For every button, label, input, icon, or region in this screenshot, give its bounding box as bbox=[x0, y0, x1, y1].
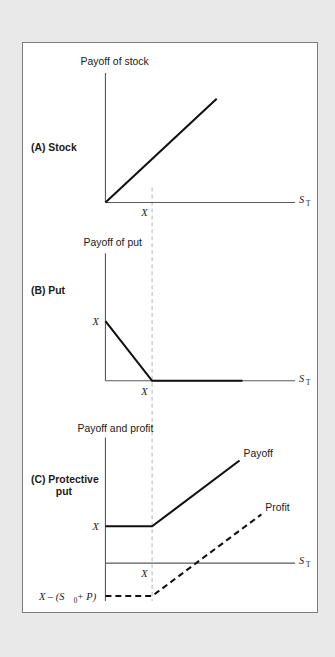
panel-put-caption: (B) Put bbox=[31, 285, 66, 296]
panel-protective-put-x-axis-title: S bbox=[299, 555, 305, 566]
panel-protective-put-y-axis-title: Payoff and profit bbox=[78, 423, 154, 434]
panel-stock-y-axis-title: Payoff of stock bbox=[81, 56, 150, 67]
panel-protective-put-y-tick-label: X bbox=[92, 521, 100, 532]
panel-put-y-tick-label: X bbox=[92, 316, 100, 327]
breakeven-label-tail: + P) bbox=[77, 591, 97, 603]
panel-put-x-tick-label: X bbox=[140, 386, 148, 397]
panel-put-payoff-line bbox=[105, 321, 242, 381]
panel-put-y-axis-title: Payoff of put bbox=[84, 237, 142, 248]
panel-protective-put-caption-line1: (C) Protective bbox=[31, 474, 99, 485]
breakeven-label-head: X – (S bbox=[38, 591, 65, 603]
figure-panel-frame: Payoff of stock X S T (A) Stock Payoff o… bbox=[22, 42, 318, 613]
panel-stock: Payoff of stock X S T (A) Stock bbox=[31, 56, 311, 218]
panel-stock-payoff-line bbox=[105, 99, 216, 203]
panel-protective-put-x-axis-title-subscript: T bbox=[306, 561, 311, 569]
panel-put: Payoff of put X X S T (B) Put bbox=[31, 237, 311, 396]
panel-put-x-axis-title: S bbox=[299, 373, 305, 384]
panel-protective-put: Payoff and profit Payoff Profit X X X – … bbox=[31, 423, 311, 605]
panel-protective-put-x-tick-label: X bbox=[140, 568, 148, 579]
panel-stock-x-axis-title: S bbox=[299, 194, 305, 205]
panel-protective-put-payoff-label: Payoff bbox=[244, 448, 273, 459]
panel-stock-caption: (A) Stock bbox=[31, 142, 77, 153]
panel-put-x-axis-title-subscript: T bbox=[306, 379, 311, 387]
panel-protective-put-breakeven-label: X – (S 0 + P) bbox=[38, 591, 97, 605]
panel-protective-put-payoff-line bbox=[105, 461, 239, 527]
panel-protective-put-caption-line2: put bbox=[56, 486, 73, 497]
panel-stock-x-tick-label: X bbox=[140, 207, 148, 218]
panel-protective-put-profit-label: Profit bbox=[265, 502, 289, 513]
payoff-diagram-svg: Payoff of stock X S T (A) Stock Payoff o… bbox=[23, 43, 317, 612]
panel-stock-x-axis-title-subscript: T bbox=[306, 200, 311, 208]
